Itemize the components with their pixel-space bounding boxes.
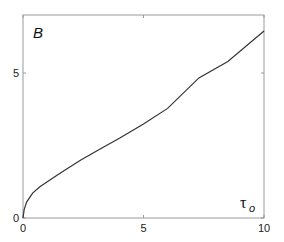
x-tick-label: 0 bbox=[20, 222, 26, 234]
y-axis-ticks: 05 bbox=[13, 67, 264, 224]
x-axis-label-subscript: o bbox=[249, 202, 255, 214]
x-axis-label: τ bbox=[240, 194, 247, 211]
x-tick-label: 5 bbox=[140, 222, 146, 234]
y-tick-label: 0 bbox=[13, 212, 19, 224]
y-tick-label: 5 bbox=[13, 67, 19, 79]
line-chart: 0510 05 B τ o bbox=[0, 0, 284, 242]
x-tick-label: 10 bbox=[258, 222, 270, 234]
panel-label: B bbox=[33, 24, 43, 41]
plot-frame bbox=[23, 15, 264, 218]
x-axis-ticks: 0510 bbox=[20, 15, 270, 234]
data-line-B bbox=[23, 31, 264, 218]
